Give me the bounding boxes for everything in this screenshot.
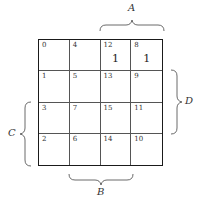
label-c: C	[8, 127, 16, 138]
variable-braces	[0, 0, 202, 201]
brace-a-icon	[100, 20, 164, 31]
brace-d-icon	[171, 70, 182, 134]
label-a: A	[128, 2, 135, 13]
brace-c-icon	[20, 102, 31, 166]
label-d: D	[185, 95, 193, 106]
brace-b-icon	[69, 174, 133, 185]
label-b: B	[97, 186, 104, 197]
